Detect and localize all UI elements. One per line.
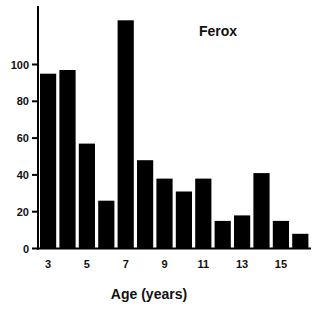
x-tick-label: 5 (84, 258, 90, 270)
bar-age-7 (118, 20, 134, 248)
y-ticks-group: 020406080100 (11, 59, 38, 255)
bar-age-9 (156, 179, 172, 249)
bar-age-10 (176, 192, 192, 249)
ferox-age-bar-chart: 020406080100 3579111315 Ferox Age (years… (0, 0, 324, 309)
bar-age-8 (137, 160, 153, 248)
x-tick-label: 13 (236, 258, 248, 270)
bar-age-16 (292, 234, 308, 249)
x-tick-label: 3 (45, 258, 51, 270)
chart-title: Ferox (199, 23, 237, 39)
y-tick-label: 80 (17, 95, 29, 107)
bar-age-11 (195, 179, 211, 249)
x-tick-label: 9 (161, 258, 167, 270)
y-tick-label: 100 (11, 59, 29, 71)
x-ticks-group: 3579111315 (45, 258, 287, 270)
bars-group (40, 20, 308, 248)
bar-age-6 (98, 201, 114, 249)
y-tick-label: 60 (17, 132, 29, 144)
bar-age-3 (40, 74, 56, 249)
bar-age-15 (273, 221, 289, 249)
x-tick-label: 7 (123, 258, 129, 270)
bar-age-5 (79, 144, 95, 249)
y-tick-label: 40 (17, 169, 29, 181)
x-tick-label: 15 (275, 258, 287, 270)
bar-age-13 (234, 215, 250, 248)
bar-age-4 (59, 70, 75, 249)
y-tick-label: 0 (23, 243, 29, 255)
x-tick-label: 11 (197, 258, 209, 270)
y-tick-label: 20 (17, 206, 29, 218)
bar-age-12 (215, 221, 231, 249)
x-axis-label: Age (years) (111, 286, 187, 302)
bar-age-14 (253, 173, 269, 248)
